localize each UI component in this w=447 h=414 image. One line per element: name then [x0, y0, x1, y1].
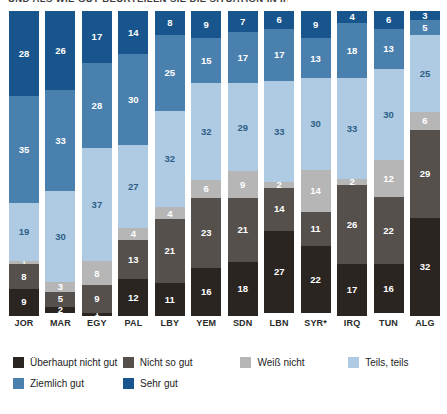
axis-label-syr: SYR* [301, 318, 331, 336]
bar-segment: 5 [45, 292, 75, 307]
bar-segment: 18 [337, 23, 367, 78]
legend-label: Teils, teils [365, 357, 408, 368]
legend-label: Ziemlich gut [30, 378, 84, 389]
bar-segment: 8 [9, 264, 39, 288]
bar-segment: 30 [374, 69, 404, 161]
bar-segment: 3 [410, 11, 440, 20]
bar-segment: 26 [45, 11, 75, 90]
bar-segment: 14 [118, 11, 148, 54]
bar-column-irq[interactable]: 4183322617 [337, 11, 367, 316]
bar-column-lby[interactable]: 8253242111 [155, 11, 185, 316]
bar-column-tun[interactable]: 61330122216 [374, 11, 404, 316]
axis-label-mar: MAR [45, 318, 75, 336]
bar-column-egy[interactable]: 172837891 [82, 11, 112, 316]
bar-segment: 8 [155, 11, 185, 35]
bar-segment: 22 [374, 197, 404, 264]
legend-item[interactable]: Sehr gut [123, 373, 241, 394]
bar-column-mar[interactable]: 263330352 [45, 11, 75, 316]
bar-segment: 19 [9, 203, 39, 261]
bar-segment: 6 [374, 11, 404, 29]
bar-column-yem[interactable]: 9153262316 [191, 11, 221, 316]
bar-segment: 33 [337, 78, 367, 179]
legend-item[interactable]: Teils, teils [348, 352, 438, 373]
bar-segment: 29 [410, 130, 440, 218]
bar-segment: 8 [82, 261, 112, 285]
axis-label-sdn: SDN [228, 318, 258, 336]
bar-segment: 27 [118, 145, 148, 227]
bar-column-pal[interactable]: 14302741312 [118, 11, 148, 316]
bar-segment: 2 [45, 307, 75, 313]
bar-segment: 6 [264, 11, 294, 29]
bar-segment: 9 [301, 11, 331, 38]
bar-column-alg[interactable]: 352562932 [410, 11, 440, 316]
legend-row-bottom: Ziemlich gutSehr gut [13, 373, 438, 394]
legend-label: Sehr gut [140, 378, 178, 389]
bar-segment: 18 [228, 262, 258, 316]
axis-label-yem: YEM [191, 318, 221, 336]
bar-segment: 12 [118, 279, 148, 316]
bar-segment: 9 [191, 11, 221, 38]
bar-segment: 33 [45, 90, 75, 191]
axis-label-lbn: LBN [264, 318, 294, 336]
bar-segment: 12 [374, 160, 404, 197]
bar-segment: 30 [301, 78, 331, 170]
bar-segment: 13 [374, 29, 404, 69]
bar-column-lbn[interactable]: 6173321427 [264, 11, 294, 316]
bar-segment: 32 [191, 83, 221, 180]
legend-swatch-icon [13, 357, 24, 368]
bar-segment: 16 [374, 264, 404, 313]
axis-label-pal: PAL [118, 318, 148, 336]
bar-segment: 9 [82, 285, 112, 312]
bar-column-syr[interactable]: 91330141122 [301, 11, 331, 316]
chart-legend: Überhaupt nicht gutNicht so gutWeiß nich… [13, 352, 438, 400]
bar-segment: 16 [191, 268, 221, 316]
bar-segment: 11 [301, 212, 331, 246]
bar-segment: 9 [9, 289, 39, 316]
bar-segment: 7 [228, 11, 258, 32]
bar-segment: 25 [155, 35, 185, 111]
bar-segment: 30 [45, 191, 75, 283]
bar-segment: 21 [228, 198, 258, 261]
legend-swatch-icon [13, 378, 24, 389]
legend-swatch-icon [240, 357, 251, 368]
bar-segment: 6 [191, 180, 221, 198]
axis-label-alg: ALG [410, 318, 440, 336]
bar-segment: 25 [410, 35, 440, 111]
bar-segment: 29 [228, 83, 258, 171]
chart-title: UND ALS WIE GUT BEURTEILEN SIE DIE SITUA… [8, 0, 288, 5]
bar-segment: 32 [155, 111, 185, 208]
legend-label: Nicht so gut [140, 357, 193, 368]
bar-segment: 4 [118, 228, 148, 240]
legend-label: Weiß nicht [257, 357, 304, 368]
bar-segment: 17 [228, 32, 258, 83]
bar-column-jor[interactable]: 283519189 [9, 11, 39, 316]
bar-segment: 17 [337, 264, 367, 316]
legend-swatch-icon [123, 357, 134, 368]
bar-segment: 28 [82, 63, 112, 148]
bar-segment: 11 [155, 283, 185, 316]
bar-segment: 5 [410, 20, 440, 35]
x-axis-labels: JORMAREGYPALLBYYEMSDNLBNSYR*IRQTUNALG [9, 318, 440, 336]
axis-label-jor: JOR [9, 318, 39, 336]
legend-item[interactable]: Überhaupt nicht gut [13, 352, 123, 373]
bar-segment: 6 [410, 112, 440, 130]
bar-segment: 3 [45, 282, 75, 291]
legend-item[interactable]: Weiß nicht [240, 352, 348, 373]
bar-column-sdn[interactable]: 7172992118 [228, 11, 258, 316]
legend-item[interactable]: Ziemlich gut [13, 373, 123, 394]
axis-label-egy: EGY [82, 318, 112, 336]
bar-segment: 21 [155, 219, 185, 282]
bar-segment: 35 [9, 96, 39, 203]
bar-segment: 30 [118, 54, 148, 146]
plot-area: 2835191892633303521728378911430274131282… [9, 11, 440, 316]
legend-swatch-icon [348, 357, 359, 368]
bar-segment: 32 [410, 218, 440, 316]
bar-segment: 27 [264, 231, 294, 313]
bar-segment: 28 [9, 11, 39, 96]
legend-swatch-icon [123, 378, 134, 389]
legend-item[interactable]: Nicht so gut [123, 352, 241, 373]
bar-segment: 4 [155, 207, 185, 219]
legend-row-top: Überhaupt nicht gutNicht so gutWeiß nich… [13, 352, 438, 373]
bar-segment: 14 [301, 170, 331, 213]
bar-segment: 13 [301, 38, 331, 78]
